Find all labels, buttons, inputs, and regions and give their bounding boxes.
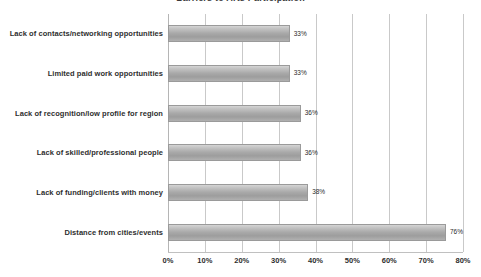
bar-chart: Barriers to Arts Participation Lack of c… — [0, 0, 481, 277]
bar — [168, 224, 446, 241]
x-tick-label: 0% — [163, 256, 174, 265]
bar — [168, 184, 308, 201]
bar-row: 33% — [168, 54, 463, 94]
category-label: Limited paid work opportunities — [48, 54, 163, 94]
bar-value-label: 36% — [305, 150, 318, 157]
plot-area: 33%33%36%36%38%76% — [168, 14, 463, 252]
x-tick-label: 50% — [345, 256, 360, 265]
category-label: Distance from cities/events — [65, 212, 163, 252]
x-tick-label: 10% — [197, 256, 212, 265]
gridline — [463, 14, 464, 252]
x-tick-label: 60% — [382, 256, 397, 265]
x-axis-tick-labels: 0%10%20%30%40%50%60%70%80% — [168, 256, 463, 270]
bar-series: 33%33%36%36%38%76% — [168, 14, 463, 252]
bar-row: 76% — [168, 212, 463, 252]
x-tick-label: 80% — [455, 256, 470, 265]
bar-value-label: 76% — [450, 229, 463, 236]
category-axis-labels: Lack of contacts/networking opportunitie… — [0, 14, 166, 252]
bar — [168, 105, 301, 122]
bar-row: 38% — [168, 173, 463, 213]
category-label: Lack of funding/clients with money — [36, 173, 163, 213]
bar — [168, 144, 301, 161]
bar-row: 33% — [168, 14, 463, 54]
x-tick-label: 30% — [271, 256, 286, 265]
bar — [168, 65, 290, 82]
bar-row: 36% — [168, 133, 463, 173]
bar-value-label: 38% — [312, 189, 325, 196]
chart-title: Barriers to Arts Participation — [0, 0, 481, 3]
bar — [168, 25, 290, 42]
category-label: Lack of contacts/networking opportunitie… — [10, 14, 163, 54]
bar-value-label: 36% — [305, 110, 318, 117]
x-tick-label: 70% — [419, 256, 434, 265]
x-tick-label: 20% — [234, 256, 249, 265]
category-label: Lack of skilled/professional people — [37, 133, 163, 173]
x-tick-label: 40% — [308, 256, 323, 265]
bar-value-label: 33% — [294, 31, 307, 38]
x-axis-line — [168, 252, 463, 253]
category-label: Lack of recognition/low profile for regi… — [15, 93, 163, 133]
bar-row: 36% — [168, 93, 463, 133]
bar-value-label: 33% — [294, 70, 307, 77]
